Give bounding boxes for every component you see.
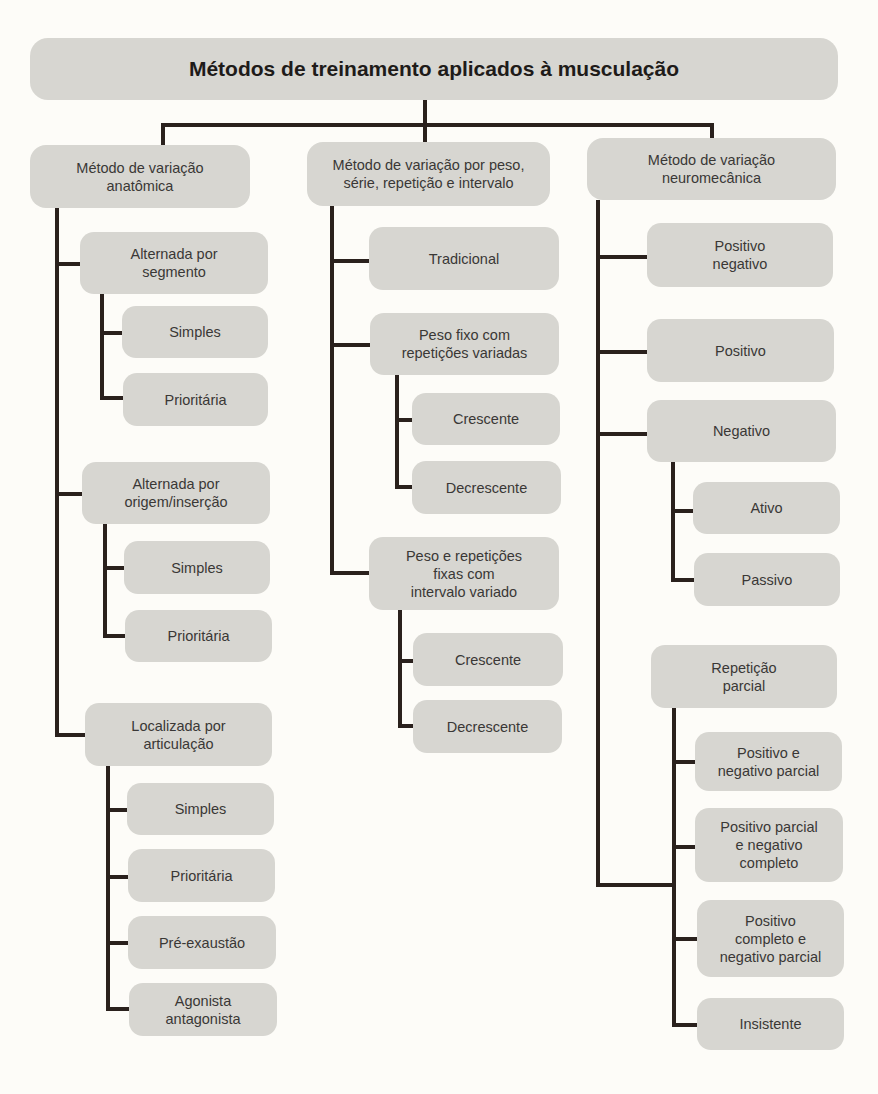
node-intervalo-crescente: Crescente [413, 633, 563, 686]
node-variacao-anatomica: Método de variação anatômica [30, 145, 250, 208]
node-intervalo-decrescente: Decrescente [413, 700, 562, 753]
connector-rp-1 [672, 760, 697, 764]
connector-rp-sub-trunk [672, 708, 676, 1027]
node-peso-intervalo: Peso e repetições fixas com intervalo va… [369, 537, 559, 610]
connector-to-anatomica [161, 123, 165, 146]
connector-orig-simples [103, 566, 126, 570]
connector-positivo [596, 350, 649, 354]
connector-orig-sub-trunk [103, 524, 107, 638]
connector-alt-origem [55, 492, 84, 496]
connector-orig-prioritaria [103, 634, 127, 638]
connector-loc-prioritaria [106, 875, 129, 879]
node-repeticao-parcial: Repetição parcial [651, 645, 837, 708]
node-negativo-ativo: Ativo [693, 482, 840, 534]
node-localizada-prioritaria: Prioritária [128, 849, 275, 902]
node-variacao-neuromecanica: Método de variação neuromecânica [587, 138, 836, 200]
connector-rp-2 [672, 845, 697, 849]
connector-pf-sub-trunk [395, 375, 399, 489]
connector-rp-4 [672, 1023, 699, 1027]
node-tradicional: Tradicional [369, 227, 559, 290]
connector-neg-ativo [671, 509, 695, 513]
connector-loc-agonista [106, 1007, 129, 1011]
connector-loc-simples [106, 808, 129, 812]
node-peso-fixo: Peso fixo com repetições variadas [370, 313, 559, 375]
node-localizada-articulacao: Localizada por articulação [85, 703, 272, 766]
node-segmento-prioritaria: Prioritária [123, 373, 268, 426]
connector-anatomica-trunk [55, 208, 59, 736]
node-negativo-passivo: Passivo [694, 553, 840, 606]
connector-title-trunk [423, 100, 427, 142]
node-localizada-pre-exaustao: Pré-exaustão [128, 916, 276, 969]
node-positivo-negativo: Positivo negativo [647, 223, 833, 287]
node-peso-fixo-decrescente: Decrescente [412, 461, 561, 514]
node-peso-fixo-crescente: Crescente [412, 393, 560, 445]
connector-to-neuromecanica [710, 123, 714, 139]
node-negativo: Negativo [647, 400, 836, 462]
connector-seg-sub-trunk [100, 294, 104, 400]
connector-neg-sub-trunk [671, 462, 675, 582]
node-alternada-origem: Alternada por origem/inserção [82, 462, 270, 524]
connector-loc-sub-trunk [106, 766, 110, 1011]
node-rp-positivo-completo-negativo-parcial: Positivo completo e negativo parcial [697, 900, 844, 977]
connector-seg-simples [100, 331, 124, 335]
node-origem-prioritaria: Prioritária [125, 610, 272, 662]
node-variacao-peso-serie: Método de variação por peso, série, repe… [307, 142, 550, 206]
connector-rep-parcial-join [596, 883, 676, 887]
connector-pos-neg [596, 255, 649, 259]
connector-peso-intervalo [330, 571, 371, 575]
node-localizada-simples: Simples [127, 783, 274, 835]
connector-pi-sub-trunk [398, 610, 402, 728]
connector-localizada [55, 733, 87, 737]
connector-alt-segmento [55, 262, 82, 266]
diagram-title: Métodos de treinamento aplicados à muscu… [30, 38, 838, 100]
node-alternada-segmento: Alternada por segmento [80, 232, 268, 294]
connector-peso-fixo [330, 343, 372, 347]
connector-tradicional [330, 259, 371, 263]
connector-top-bar [161, 123, 714, 127]
node-rp-positivo-parcial-negativo-completo: Positivo parcial e negativo completo [695, 808, 843, 882]
connector-seg-prioritaria [100, 396, 125, 400]
connector-negativo [596, 432, 649, 436]
connector-neuro-trunk [596, 200, 600, 887]
connector-neg-passivo [671, 578, 696, 582]
connector-rp-3 [672, 937, 699, 941]
node-rp-positivo-negativo-parcial: Positivo e negativo parcial [695, 732, 842, 791]
connector-loc-pre-exaustao [106, 941, 129, 945]
node-origem-simples: Simples [124, 541, 270, 594]
node-rp-insistente: Insistente [697, 998, 844, 1050]
node-segmento-simples: Simples [122, 306, 268, 358]
node-positivo: Positivo [647, 319, 834, 382]
node-localizada-agonista: Agonista antagonista [129, 983, 277, 1036]
